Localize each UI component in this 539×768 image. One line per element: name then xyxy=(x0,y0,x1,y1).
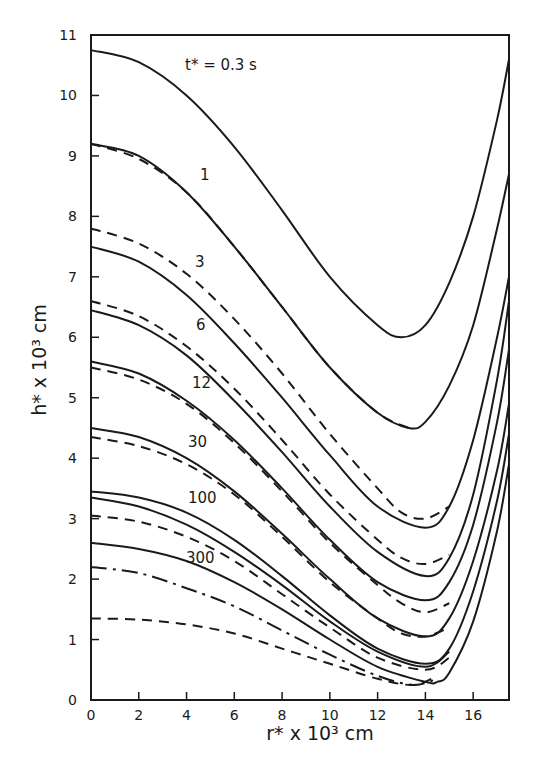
curve-dashed xyxy=(91,144,409,428)
y-tick-label: 9 xyxy=(68,148,77,164)
chart: 024681012141601234567891011 t* = 0.3 s 1… xyxy=(0,0,539,768)
y-tick-label: 6 xyxy=(68,329,77,345)
y-tick-label: 4 xyxy=(68,450,77,466)
x-tick-label: 6 xyxy=(230,707,239,723)
y-tick-label: 11 xyxy=(59,27,77,43)
curve-label-30: 30 xyxy=(188,433,207,451)
curve-solid xyxy=(91,144,509,429)
curve-solid xyxy=(91,464,509,683)
curve-label-100: 100 xyxy=(188,489,217,507)
curve-solid xyxy=(91,301,509,576)
curve-label-12: 12 xyxy=(192,374,211,392)
curve-solid xyxy=(91,434,509,664)
x-tick-label: 12 xyxy=(369,707,387,723)
y-axis-label: h* x 10³ cm xyxy=(28,304,50,416)
y-tick-label: 5 xyxy=(68,390,77,406)
x-tick-label: 0 xyxy=(87,707,96,723)
axis-ticks: 024681012141601234567891011 xyxy=(59,27,482,723)
curve-label-6: 6 xyxy=(196,316,206,334)
curve-dashed xyxy=(91,301,449,564)
x-tick-label: 10 xyxy=(321,707,339,723)
curve-label-3: 3 xyxy=(195,253,205,271)
y-tick-label: 2 xyxy=(68,571,77,587)
y-tick-label: 10 xyxy=(59,87,77,103)
x-tick-label: 14 xyxy=(416,707,434,723)
y-tick-label: 7 xyxy=(68,269,77,285)
x-tick-label: 2 xyxy=(134,707,143,723)
x-tick-label: 8 xyxy=(278,707,287,723)
curve-solid xyxy=(91,404,509,637)
y-tick-label: 3 xyxy=(68,511,77,527)
y-tick-label: 0 xyxy=(68,692,77,708)
x-tick-label: 16 xyxy=(464,707,482,723)
plot-frame xyxy=(91,35,509,700)
x-tick-label: 4 xyxy=(182,707,191,723)
y-tick-label: 1 xyxy=(68,632,77,648)
curve-solid xyxy=(91,50,509,337)
curve-label-1: 1 xyxy=(200,166,210,184)
y-tick-label: 8 xyxy=(68,208,77,224)
x-axis-label: r* x 10³ cm xyxy=(266,722,373,744)
curve-dashed xyxy=(91,437,449,637)
curve-label-300: 300 xyxy=(186,549,215,567)
curve-label-t03: t* = 0.3 s xyxy=(185,56,257,74)
curve-dashdot xyxy=(91,567,437,685)
curves xyxy=(91,50,509,685)
